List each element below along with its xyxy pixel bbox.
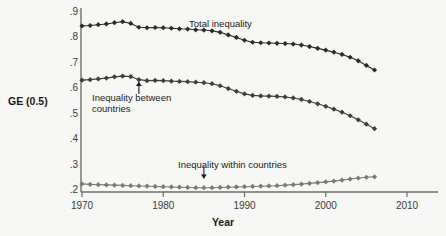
- y-axis-title: GE (0.5): [8, 95, 48, 107]
- x-tick-label: 2000: [315, 200, 337, 211]
- annotation-inequality-between-countries: Inequality between countries: [92, 92, 171, 114]
- x-axis-ticks: 19701980199020002010: [0, 0, 446, 236]
- x-tick-label: 1980: [152, 200, 174, 211]
- x-axis-title: Year: [212, 216, 234, 228]
- x-tick-label: 1970: [71, 200, 93, 211]
- chart-container: .2.3.4.5.6.7.8.9 19701980199020002010 GE…: [0, 0, 446, 236]
- annotation-total-inequality: Total inequality: [189, 18, 252, 29]
- annotation-inequality-within-countries: Inequality within countries: [178, 159, 287, 170]
- x-tick-label: 2010: [396, 200, 418, 211]
- x-tick-label: 1990: [233, 200, 255, 211]
